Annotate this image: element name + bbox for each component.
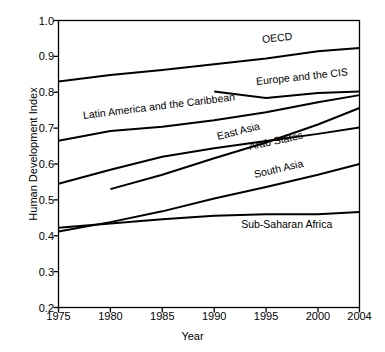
y-axis-title: Human Development Index <box>27 74 39 234</box>
y-tick-label: 1.0 <box>39 15 54 27</box>
y-tick-label: 0.4 <box>39 230 54 242</box>
series-label-sub-saharan-africa: Sub-Saharan Africa <box>241 218 332 230</box>
y-tick-label: 0.8 <box>39 86 54 98</box>
hdi-line-chart: 0.20.30.40.50.60.70.80.91.0 197519801985… <box>0 0 385 352</box>
plot-frame <box>59 21 360 308</box>
y-tick-label: 0.3 <box>39 266 54 278</box>
x-axis-title: Year <box>0 330 385 342</box>
y-tick-label: 0.6 <box>39 158 54 170</box>
y-tick-label: 0.9 <box>39 50 54 62</box>
y-tick-label: 0.7 <box>39 122 54 134</box>
x-tick-label: 2000 <box>306 310 330 322</box>
x-tick-label: 2004 <box>347 310 371 322</box>
plot-area <box>0 0 385 352</box>
x-tick-label: 1990 <box>202 310 226 322</box>
x-tick-label: 1975 <box>46 310 70 322</box>
x-tick-label: 1995 <box>254 310 278 322</box>
x-tick-label: 1980 <box>98 310 122 322</box>
x-tick-label: 1985 <box>150 310 174 322</box>
y-tick-label: 0.5 <box>39 194 54 206</box>
